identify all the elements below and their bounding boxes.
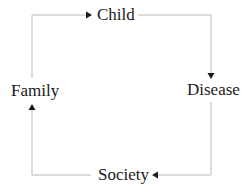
node-family: Family (11, 82, 59, 100)
arrowhead-down-icon (208, 73, 215, 79)
edge-disease-to-society (152, 102, 211, 179)
arrowhead-right-icon (86, 12, 92, 19)
arrowhead-up-icon (29, 104, 36, 110)
node-society: Society (98, 166, 149, 184)
node-disease: Disease (187, 81, 240, 99)
node-child: Child (97, 6, 135, 24)
cycle-diagram: Child Disease Society Family (0, 0, 247, 193)
arrowhead-left-icon (152, 172, 158, 179)
edge-society-to-family (29, 104, 92, 175)
edge-child-to-disease (138, 15, 215, 79)
edge-family-to-child (32, 12, 92, 79)
